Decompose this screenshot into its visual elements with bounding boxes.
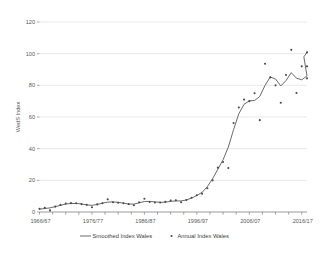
annual-index-dot [306, 51, 308, 53]
annual-index-dot [217, 167, 219, 169]
annual-index-dot [96, 203, 98, 205]
annual-index-dot [49, 209, 51, 211]
annual-index-dot [248, 100, 250, 102]
x-tick-label: 1986/87 [135, 218, 155, 224]
annual-index-dot [101, 202, 103, 204]
annual-index-dot [159, 201, 161, 203]
annual-index-dot [280, 102, 282, 104]
annual-index-dot [295, 92, 297, 94]
annual-index-dot [170, 199, 172, 201]
x-tick-label: 1976/77 [83, 218, 103, 224]
annual-index-dot [306, 77, 308, 79]
annual-index-dot [196, 194, 198, 196]
y-tick-label: 120 [26, 19, 35, 25]
annual-index-dot [264, 63, 266, 65]
legend-label: Smoothed Index Wales [93, 233, 153, 239]
legend-dot-swatch [170, 235, 172, 237]
y-axis-title: WedS Index [15, 102, 21, 133]
annual-index-dot [54, 206, 56, 208]
annual-index-dot [154, 201, 156, 203]
annual-index-dot [149, 201, 151, 203]
annual-index-dot [222, 161, 224, 163]
annual-index-dot [185, 199, 187, 201]
annual-index-dot [38, 208, 40, 210]
annual-index-dot [70, 202, 72, 204]
annual-index-dot [133, 204, 135, 206]
annual-index-dot [191, 197, 193, 199]
annual-index-dot [274, 84, 276, 86]
x-tick-label: 1996/97 [188, 218, 208, 224]
annual-index-dot [201, 193, 203, 195]
annual-index-dot [269, 76, 271, 78]
y-tick-label: 0 [32, 209, 35, 215]
index-line-chart: 020406080100120 1966/671976/771986/87199… [0, 0, 321, 256]
annual-index-dot [44, 207, 46, 209]
legend-label: Annual Index Wales [178, 233, 229, 239]
annual-index-dot [301, 65, 303, 67]
annual-index-dot [227, 167, 229, 169]
y-tick-label: 60 [29, 114, 35, 120]
annual-index-dot [59, 204, 61, 206]
annual-index-dot [164, 201, 166, 203]
annual-index-dot [75, 202, 77, 204]
annual-index-dot [206, 187, 208, 189]
annual-index-dot [238, 106, 240, 108]
annual-index-dot [86, 204, 88, 206]
annual-index-dot [65, 202, 67, 204]
annual-index-dot [91, 206, 93, 208]
annual-index-dot [138, 201, 140, 203]
annual-index-dot [80, 203, 82, 205]
annual-index-dot [285, 74, 287, 76]
x-tick-label: 1966/67 [30, 218, 50, 224]
annual-index-dot [128, 203, 130, 205]
annual-index-dot [180, 201, 182, 203]
annual-index-dot [306, 65, 308, 67]
annual-index-dot [117, 202, 119, 204]
annual-index-dot [112, 201, 114, 203]
annual-index-dot [122, 202, 124, 204]
annual-index-dot [175, 199, 177, 201]
y-tick-label: 100 [26, 51, 35, 57]
y-tick-label: 40 [29, 146, 35, 152]
y-tick-label: 80 [29, 82, 35, 88]
x-tick-label: 2016/17 [293, 218, 313, 224]
annual-index-dot [259, 119, 261, 121]
x-tick-label: 2006/07 [240, 218, 260, 224]
annual-index-dot [107, 198, 109, 200]
annual-index-dot [254, 92, 256, 94]
annual-index-dot [212, 179, 214, 181]
annual-index-dot [243, 99, 245, 101]
annual-index-dot [290, 49, 292, 51]
y-tick-label: 20 [29, 177, 35, 183]
annual-index-dot [143, 198, 145, 200]
annual-index-dot [233, 122, 235, 124]
chart-container: 020406080100120 1966/671976/771986/87199… [0, 0, 321, 256]
